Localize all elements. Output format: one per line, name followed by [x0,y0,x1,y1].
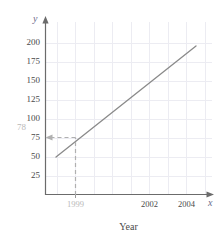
annotation-arrowhead [46,135,53,141]
x-axis-title: Year [45,222,212,232]
y-tick-label-125: 125 [2,95,40,104]
y-axis-arrowhead [42,16,48,24]
y-tick-label-25: 25 [2,171,40,180]
y-tick-label-75: 75 [2,133,40,142]
axis-lines [45,20,210,195]
x-tick-label-2004: 2004 [166,200,207,209]
x-tick-label-1999: 1999 [55,200,96,209]
y-tick-label-150: 150 [2,76,40,85]
annotation-guides [51,138,76,196]
gridlines-vertical [57,22,205,195]
y-tick-label-175: 175 [2,57,40,66]
y-tick-label-200: 200 [2,38,40,47]
line-chart: 200 175 150 125 100 75 50 25 78 1999 200… [0,0,219,244]
y-tick-label-50: 50 [2,152,40,161]
highlight-value-78: 78 [0,123,26,132]
x-tick-label-2002: 2002 [129,200,170,209]
y-axis-name: y [33,14,37,24]
x-axis-name: x [208,198,212,208]
